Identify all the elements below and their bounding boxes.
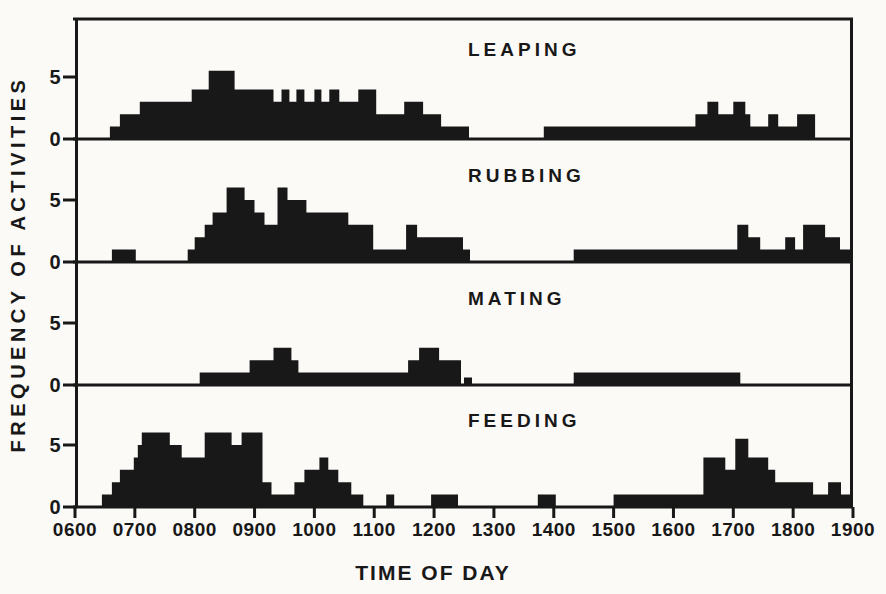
x-tick-label: 1700: [711, 519, 755, 540]
y-tick-label: 0: [49, 374, 60, 396]
x-tick-label: 1600: [651, 519, 695, 540]
panel-title-feeding: FEEDING: [468, 410, 580, 431]
y-tick-label: 5: [49, 189, 60, 211]
x-tick-label: 1800: [771, 519, 815, 540]
y-tick-label: 5: [49, 66, 60, 88]
y-tick-label: 0: [49, 128, 60, 150]
y-axis-title: FREQUENCY OF ACTIVITIES: [7, 76, 29, 453]
chart-generated-content: 50LEAPING50RUBBING50MATING50FEEDING06000…: [0, 0, 886, 594]
activity-histogram-figure: 50LEAPING50RUBBING50MATING50FEEDING06000…: [0, 0, 886, 594]
panel-title-mating: MATING: [468, 288, 566, 309]
x-tick-label: 1400: [532, 519, 576, 540]
y-tick-label: 0: [49, 251, 60, 273]
x-tick-label: 0800: [173, 519, 217, 540]
y-tick-label: 5: [49, 434, 60, 456]
x-tick-label: 1300: [472, 519, 516, 540]
x-tick-label: 1900: [831, 519, 875, 540]
chart-canvas: 50LEAPING50RUBBING50MATING50FEEDING06000…: [0, 0, 886, 594]
y-tick-label: 5: [49, 312, 60, 334]
x-tick-label: 0900: [232, 519, 276, 540]
x-tick-label: 1200: [412, 519, 456, 540]
panel-title-rubbing: RUBBING: [468, 165, 585, 186]
x-tick-label: 1500: [591, 519, 635, 540]
x-axis-title: TIME OF DAY: [355, 561, 510, 584]
x-tick-label: 0700: [113, 519, 157, 540]
panel-title-leaping: LEAPING: [468, 39, 580, 60]
x-tick-label: 1100: [353, 519, 396, 540]
x-tick-label: 0600: [53, 519, 97, 540]
x-tick-label: 1000: [292, 519, 336, 540]
y-tick-label: 0: [49, 496, 60, 518]
